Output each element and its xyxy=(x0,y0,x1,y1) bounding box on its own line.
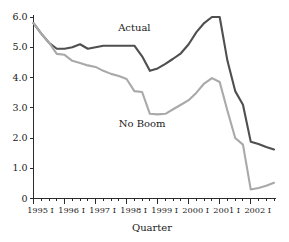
x-tick-label: 1999 I xyxy=(151,205,178,215)
series-annotations: ActualNo Boom xyxy=(117,22,166,130)
x-tick-label: 1995 I xyxy=(27,205,54,215)
series-label-no-boom: No Boom xyxy=(119,118,166,129)
x-tick-label: 1996 I xyxy=(58,205,85,215)
line-chart-plot: 01.02.03.04.05.06.0 1995 I1996 I1997 I19… xyxy=(0,0,289,242)
series-lines xyxy=(34,17,275,189)
x-tick-label: 2002 I xyxy=(244,205,271,215)
y-tick-label: 5.0 xyxy=(12,41,27,52)
series-label-actual: Actual xyxy=(117,22,150,33)
chart-container: 01.02.03.04.05.06.0 1995 I1996 I1997 I19… xyxy=(0,0,289,242)
y-tick-label: 3.0 xyxy=(12,102,27,113)
y-axis: 01.02.03.04.05.06.0 xyxy=(12,11,33,204)
x-tick-label: 2000 I xyxy=(182,205,209,215)
y-tick-label: 0 xyxy=(21,193,27,204)
series-line-actual xyxy=(34,17,275,150)
x-tick-label: 1998 I xyxy=(120,205,147,215)
x-tick-label: 1997 I xyxy=(89,205,116,215)
x-axis: 1995 I1996 I1997 I1998 I1999 I2000 I2001… xyxy=(27,199,276,215)
x-axis-title: Quarter xyxy=(132,222,172,233)
y-tick-label: 4.0 xyxy=(12,72,27,83)
y-tick-label: 2.0 xyxy=(12,132,27,143)
y-tick-label: 1.0 xyxy=(12,162,27,173)
x-tick-label: 2001 I xyxy=(213,205,240,215)
y-tick-label: 6.0 xyxy=(12,11,27,22)
